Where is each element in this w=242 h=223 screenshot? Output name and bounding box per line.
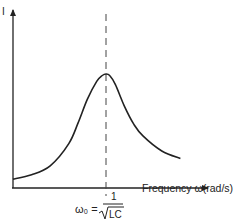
y-axis-label: I	[2, 6, 5, 17]
formula-numerator: 1	[111, 191, 117, 202]
formula-denominator: LC	[109, 209, 122, 220]
formula-prefix: ω₀ =	[75, 203, 98, 215]
resonance-chart: I Frequency ω(rad/s) ω₀ = 1 LC	[0, 0, 242, 223]
x-axis-label: Frequency ω(rad/s)	[142, 182, 233, 194]
resonance-frequency-formula: ω₀ = 1 LC	[75, 191, 124, 220]
resonance-curve-line	[13, 74, 180, 179]
